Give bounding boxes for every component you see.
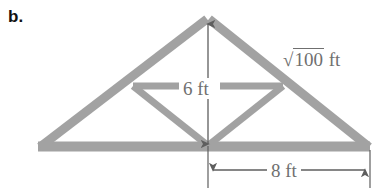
truss-right-web [210, 86, 283, 144]
height-dimension-label: 6 ft [179, 78, 213, 99]
hypotenuse-dimension-label: √100 ft [283, 50, 340, 69]
radicand-value: 100 [293, 48, 324, 70]
radical-sign: √ [283, 49, 293, 70]
width-dimension-label: 8 ft [267, 160, 301, 181]
figure-canvas: b. [0, 0, 375, 188]
hypotenuse-unit: ft [329, 49, 341, 70]
